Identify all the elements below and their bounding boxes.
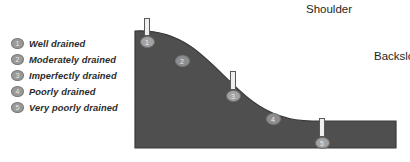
legend-badge-number: 1 xyxy=(12,39,23,48)
hillslope-profile-shape xyxy=(134,0,400,162)
legend-badge-number: 5 xyxy=(12,103,23,112)
marker-number: 3 xyxy=(231,93,235,100)
marker-badge-5: 5 xyxy=(315,137,330,149)
marker-badge-1: 1 xyxy=(140,36,155,48)
legend-item: 1 Well drained xyxy=(11,36,133,51)
legend-badge-3: 3 xyxy=(11,70,24,81)
marker-number: 4 xyxy=(271,116,275,123)
legend-badge-number: 2 xyxy=(12,55,23,64)
legend-label-moderately-drained: Moderately drained xyxy=(29,55,116,65)
legend-badge-2: 2 xyxy=(11,54,24,65)
marker-badge-4: 4 xyxy=(266,113,281,125)
marker-number: 5 xyxy=(320,140,324,147)
marker-number: 2 xyxy=(180,58,184,65)
drainage-legend: 1 Well drained 2 Moderately drained 3 Im… xyxy=(11,36,133,116)
marker-badge-3: 3 xyxy=(226,90,241,102)
legend-label-imperfectly-drained: Imperfectly drained xyxy=(29,71,117,81)
legend-badge-4: 4 xyxy=(11,86,24,97)
legend-item: 5 Very poorly drained xyxy=(11,100,133,115)
catena-diagram: 1 Well drained 2 Moderately drained 3 Im… xyxy=(0,0,410,162)
marker-post-icon xyxy=(144,18,150,36)
legend-label-well-drained: Well drained xyxy=(29,39,85,49)
legend-badge-5: 5 xyxy=(11,102,24,113)
marker-post-icon xyxy=(230,71,236,90)
legend-label-poorly-drained: Poorly drained xyxy=(29,87,96,97)
marker-number: 1 xyxy=(145,39,149,46)
marker-post-icon xyxy=(319,118,325,137)
position-label-shoulder: Shoulder xyxy=(306,3,352,15)
position-label-backslope: Backslope xyxy=(374,50,410,62)
legend-item: 3 Imperfectly drained xyxy=(11,68,133,83)
legend-item: 4 Poorly drained xyxy=(11,84,133,99)
legend-item: 2 Moderately drained xyxy=(11,52,133,67)
marker-badge-2: 2 xyxy=(175,55,190,67)
legend-badge-number: 3 xyxy=(12,71,23,80)
hillslope-illustration: Shoulder Backslope Footslope 1 2 3 4 xyxy=(134,0,400,162)
landform-body xyxy=(135,31,396,148)
legend-badge-1: 1 xyxy=(11,38,24,49)
legend-label-very-poorly-drained: Very poorly drained xyxy=(29,103,118,113)
legend-badge-number: 4 xyxy=(12,87,23,96)
